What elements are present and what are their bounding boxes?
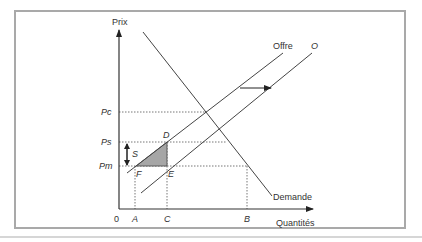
ps-label: Ps [101, 137, 112, 147]
c-label: C [164, 214, 171, 224]
shifted-supply-label: O [311, 41, 318, 51]
guide-lines [119, 112, 247, 209]
point-d-label: D [163, 130, 170, 140]
point-f-label: F [136, 169, 142, 179]
a-label: A [131, 214, 138, 224]
origin-label: 0 [114, 214, 119, 224]
shifted-supply-curve [141, 53, 312, 193]
pm-label: Pm [99, 161, 113, 171]
supply-label: Offre [273, 41, 293, 51]
demand-label: Demande [273, 192, 312, 202]
x-axis-label: Quantités [276, 218, 315, 228]
b-label: B [244, 214, 250, 224]
point-e-label: E [168, 169, 175, 179]
demand-curve [143, 32, 272, 196]
y-axis-label: Prix [112, 17, 128, 27]
pc-label: Pc [101, 107, 112, 117]
subsidy-label: S [132, 149, 138, 159]
supply-curve [127, 53, 283, 173]
supply-demand-diagram: Prix Quantités 0 Pc Ps Pm A C B D F E S … [0, 0, 422, 242]
